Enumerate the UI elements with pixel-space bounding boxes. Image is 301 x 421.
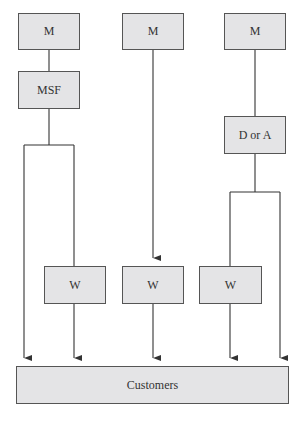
node-label: M (148, 24, 159, 39)
node-label: M (250, 24, 261, 39)
node-label: MSF (37, 83, 61, 98)
node-label: D or A (239, 128, 272, 143)
node-label: W (69, 278, 80, 293)
wholesaler-box-1: W (44, 266, 106, 304)
d-or-a-box: D or A (224, 116, 286, 154)
manufacturer-box-2: M (122, 13, 184, 50)
node-label: W (147, 278, 158, 293)
node-label: M (44, 24, 55, 39)
caption-fragment (6, 409, 296, 421)
node-label: W (225, 278, 236, 293)
manufacturer-box-1: M (18, 13, 80, 50)
wholesaler-box-3: W (199, 266, 262, 304)
customers-box: Customers (16, 366, 289, 404)
wholesaler-box-2: W (122, 266, 184, 304)
msf-box: MSF (18, 71, 80, 109)
manufacturer-box-3: M (224, 13, 286, 50)
node-label: Customers (127, 378, 178, 393)
connector-lines (0, 0, 301, 421)
